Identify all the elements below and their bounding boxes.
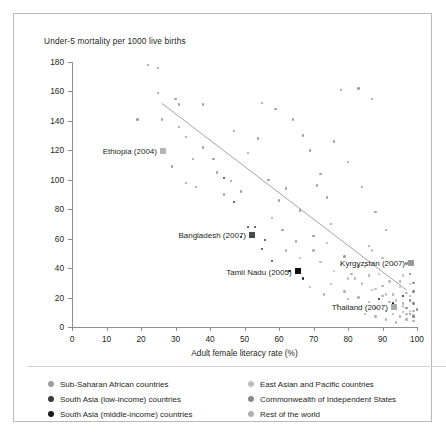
point-callout-marker xyxy=(295,268,301,274)
scatter-point xyxy=(223,193,225,195)
legend-item: South Asia (low-income) countries xyxy=(48,395,181,404)
x-tick-label: 50 xyxy=(230,334,260,344)
y-tick-label: 180 xyxy=(24,57,64,67)
x-tick-label: 30 xyxy=(161,334,191,344)
legend-item: Sub-Saharan African countries xyxy=(48,380,169,389)
scatter-point xyxy=(309,149,311,151)
scatter-point xyxy=(405,318,407,320)
x-tick-label: 70 xyxy=(299,334,329,344)
scatter-point xyxy=(374,288,376,290)
x-tick xyxy=(314,327,315,331)
legend: Sub-Saharan African countriesEast Asian … xyxy=(48,380,428,425)
point-callout-marker xyxy=(249,232,255,238)
scatter-point xyxy=(178,126,180,128)
x-tick xyxy=(348,327,349,331)
x-tick xyxy=(383,327,384,331)
point-callout-marker xyxy=(391,304,397,310)
x-axis-title: Adult female literacy rate (%) xyxy=(72,348,417,358)
scatter-point xyxy=(412,315,414,317)
legend-item: Rest of the world xyxy=(248,410,320,419)
legend-swatch-icon xyxy=(48,411,54,417)
figure-frame: Under-5 mortality per 1000 live births 0… xyxy=(13,13,432,422)
trendline xyxy=(72,62,417,327)
point-callout: Thailand (2007) xyxy=(332,303,397,312)
scatter-point xyxy=(409,299,411,301)
y-axis-title: Under-5 mortality per 1000 live births xyxy=(44,36,186,46)
x-tick xyxy=(176,327,177,331)
scatter-point xyxy=(316,184,318,186)
scatter-point xyxy=(357,87,359,89)
x-tick xyxy=(141,327,142,331)
scatter-point xyxy=(357,296,359,298)
scatter-point xyxy=(267,179,269,181)
scatter-point xyxy=(343,290,345,292)
scatter-point xyxy=(312,235,314,237)
point-callout: Kyrgyzstan (2007) xyxy=(340,259,414,268)
point-callout-marker xyxy=(160,148,166,154)
legend-divider xyxy=(27,366,446,367)
y-tick-label: 120 xyxy=(24,145,64,155)
scatter-point xyxy=(368,274,370,276)
scatter-point xyxy=(299,209,301,211)
point-callout-label: Ethiopia (2004) xyxy=(103,147,157,156)
scatter-point xyxy=(399,315,401,317)
scatter-point xyxy=(161,118,163,120)
legend-swatch-icon xyxy=(248,411,254,417)
scatter-point xyxy=(347,277,349,279)
scatter-point xyxy=(319,173,321,175)
y-tick-label: 60 xyxy=(24,234,64,244)
scatter-point xyxy=(278,199,280,201)
x-tick xyxy=(245,327,246,331)
point-callout-label: Kyrgyzstan (2007) xyxy=(340,259,405,268)
scatter-point xyxy=(174,98,176,100)
scatter-point xyxy=(374,315,376,317)
legend-item: South Asia (middle-income) countries xyxy=(48,410,193,419)
scatter-point xyxy=(412,310,414,312)
scatter-point xyxy=(261,248,263,250)
scatter-point xyxy=(392,313,394,315)
legend-swatch-icon xyxy=(48,381,54,387)
legend-swatch-icon xyxy=(48,396,54,402)
y-tick-label: 0 xyxy=(24,322,64,332)
x-tick-label: 100 xyxy=(402,334,432,344)
scatter-point xyxy=(354,277,356,279)
scatter-point xyxy=(381,295,383,297)
scatter-point xyxy=(216,171,218,173)
legend-swatch-icon xyxy=(248,396,254,402)
y-tick-label: 160 xyxy=(24,86,64,96)
scatter-point xyxy=(381,285,383,287)
scatter-point xyxy=(302,277,304,279)
x-tick-label: 10 xyxy=(92,334,122,344)
scatter-point xyxy=(388,280,390,282)
scatter-point xyxy=(350,273,352,275)
scatter-point xyxy=(312,249,314,251)
legend-row: South Asia (low-income) countriesCommonw… xyxy=(48,395,428,410)
x-tick xyxy=(417,327,418,331)
y-tick-label: 40 xyxy=(24,263,64,273)
scatter-point xyxy=(136,118,138,120)
scatter-point xyxy=(368,245,370,247)
scatter-point xyxy=(281,229,283,231)
scatter-point xyxy=(399,280,401,282)
y-tick-label: 20 xyxy=(24,293,64,303)
scatter-point xyxy=(412,290,414,292)
y-tick-label: 100 xyxy=(24,175,64,185)
x-tick xyxy=(107,327,108,331)
legend-row: Sub-Saharan African countriesEast Asian … xyxy=(48,380,428,395)
scatter-point xyxy=(416,308,418,310)
x-tick xyxy=(72,327,73,331)
legend-item-label: South Asia (low-income) countries xyxy=(60,395,181,404)
chart-figure: Under-5 mortality per 1000 live births 0… xyxy=(0,0,446,436)
legend-swatch-icon xyxy=(248,381,254,387)
legend-item-label: Rest of the world xyxy=(260,410,320,419)
x-tick-label: 90 xyxy=(368,334,398,344)
legend-item-label: South Asia (middle-income) countries xyxy=(60,410,193,419)
x-tick-label: 60 xyxy=(264,334,294,344)
legend-item-label: Commonwealth of Independent States xyxy=(260,395,396,404)
scatter-point xyxy=(412,302,414,304)
scatter-point xyxy=(385,318,387,320)
legend-row: South Asia (middle-income) countriesRest… xyxy=(48,410,428,425)
scatter-point xyxy=(178,103,180,105)
scatter-point xyxy=(343,255,345,257)
point-callout-marker xyxy=(408,260,414,266)
